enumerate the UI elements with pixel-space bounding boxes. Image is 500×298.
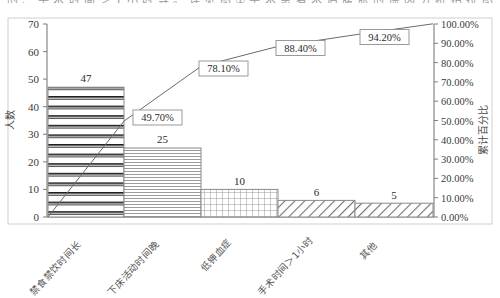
cumulative-label-1: 78.10%: [199, 61, 248, 76]
y-tick-label-30: 30: [28, 128, 40, 140]
cumulative-label-2: 88.40%: [276, 41, 325, 56]
clipped-caption-text: 的 、 手 术 时 间 ＞ 1 小 时 等 。 详 见 图 ① 手 术 患 者 …: [0, 0, 500, 3]
bar-3: [278, 200, 355, 217]
bar-2: [201, 189, 278, 217]
bars-group: [48, 87, 433, 217]
x-category-label-3: 手术时间＞1小时: [255, 234, 315, 297]
x-category-label-0: 禁食禁饮时间长: [27, 239, 83, 298]
y-axis-right-ticks: [434, 24, 438, 217]
x-category-label-4: 其他: [357, 239, 379, 261]
bar-1: [124, 148, 201, 217]
y-tick-label-0: 0: [34, 211, 40, 223]
y-axis-left-title: 人数: [4, 110, 16, 130]
y2-tick-label-100: 100.00%: [441, 19, 479, 30]
y2-tick-label-90: 90.00%: [441, 38, 474, 49]
bar-value-2: 10: [234, 175, 246, 187]
bar-4: [355, 203, 433, 217]
bar-value-3: 6: [314, 186, 320, 198]
pareto-chart: 的 、 手 术 时 间 ＞ 1 小 时 等 。 详 见 图 ① 手 术 患 者 …: [0, 0, 500, 298]
bar-value-0: 47: [81, 72, 93, 84]
y-axis-left: 0 10 20 30 40 50 60 70 人数: [4, 18, 47, 223]
y-tick-label-10: 10: [28, 183, 40, 195]
y-axis-right: 0.00% 10.00% 20.00% 30.00% 40.00% 50.00%…: [434, 19, 489, 223]
y-tick-label-60: 60: [28, 46, 40, 58]
bar-value-4: 5: [391, 189, 397, 201]
y2-tick-label-10: 10.00%: [441, 193, 474, 204]
cumulative-labels-group: 49.70% 78.10% 88.40% 94.20%: [133, 30, 409, 126]
y2-tick-label-50: 50.00%: [441, 116, 474, 127]
y2-tick-label-80: 80.00%: [441, 58, 474, 69]
y-tick-label-20: 20: [28, 156, 40, 168]
y-axis-right-title: 累计百分比: [477, 105, 489, 155]
y2-tick-label-20: 20.00%: [441, 173, 474, 184]
cumulative-label-3: 94.20%: [360, 30, 409, 45]
x-category-label-2: 低钾血症: [198, 237, 233, 274]
y-axis-left-ticks: [43, 24, 47, 217]
chart-svg: 0 10 20 30 40 50 60 70 人数: [0, 0, 500, 298]
y2-tick-label-0: 0.00%: [441, 212, 468, 223]
y-tick-label-50: 50: [28, 73, 40, 85]
bar-value-1: 25: [157, 133, 169, 145]
y2-tick-label-70: 70.00%: [441, 77, 474, 88]
cumulative-label-0-text: 49.70%: [141, 112, 174, 123]
y-tick-label-40: 40: [28, 101, 40, 113]
cumulative-label-3-text: 94.20%: [368, 32, 401, 43]
y-tick-label-70: 70: [28, 18, 40, 30]
y2-tick-label-60: 60.00%: [441, 96, 474, 107]
bar-0: [48, 87, 124, 217]
y2-tick-label-30: 30.00%: [441, 154, 474, 165]
cumulative-label-0: 49.70%: [133, 110, 182, 125]
cumulative-label-1-text: 78.10%: [207, 63, 240, 74]
x-axis-category-labels: 禁食禁饮时间长 下床活动时间晚 低钾血症 手术时间＞1小时 其他: [27, 234, 379, 297]
cumulative-label-2-text: 88.40%: [284, 43, 317, 54]
y2-tick-label-40: 40.00%: [441, 135, 474, 146]
x-category-label-1: 下床活动时间晚: [105, 239, 161, 298]
